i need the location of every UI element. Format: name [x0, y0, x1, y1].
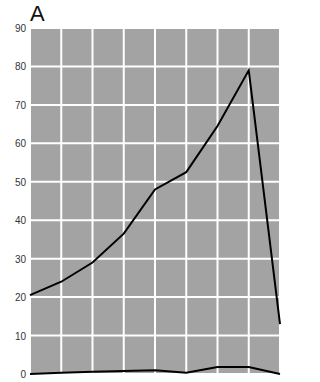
y-tick-label: 20	[15, 292, 27, 303]
y-tick-label: 30	[15, 254, 27, 265]
y-tick-label: 60	[15, 138, 27, 149]
y-tick-label: 0	[20, 369, 26, 380]
y-tick-label: 70	[15, 100, 27, 111]
y-tick-label: 40	[15, 215, 27, 226]
y-tick-label: 80	[15, 61, 27, 72]
y-tick-label: 10	[15, 331, 27, 342]
line-chart: 0102030405060708090	[0, 0, 320, 382]
y-tick-label: 90	[15, 23, 27, 34]
y-tick-label: 50	[15, 177, 27, 188]
